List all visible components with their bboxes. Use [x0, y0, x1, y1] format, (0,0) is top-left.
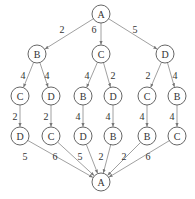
node-label: C [144, 91, 151, 102]
node-label: C [48, 131, 55, 142]
node-label: B [34, 49, 41, 60]
node-label: C [98, 49, 105, 60]
node-b: B [104, 127, 122, 145]
edge-weight-label: 4 [21, 70, 26, 81]
edge-n0-n1 [45, 19, 93, 49]
edge-n3-n8 [151, 62, 162, 87]
edge-arrow [103, 63, 110, 87]
node-d: D [74, 127, 92, 145]
edge-weight-label: 2 [146, 70, 151, 81]
node-b: B [28, 45, 46, 63]
node-label: B [144, 131, 151, 142]
node-c: C [168, 127, 186, 145]
edge-arrow [45, 19, 93, 49]
node-a: A [92, 173, 110, 191]
edge-arrow [28, 140, 93, 177]
edge-weight-label: 4 [76, 111, 81, 122]
node-label: D [16, 131, 23, 142]
node-d: D [42, 87, 60, 105]
edge-arrow [58, 142, 94, 175]
edge-weight-label: 2 [99, 151, 104, 162]
edge-weight-label: 2 [60, 24, 65, 35]
node-label: C [174, 131, 181, 142]
edge-weight-label: 4 [140, 111, 145, 122]
node-c: C [42, 127, 60, 145]
edge-n12-n16 [86, 144, 97, 173]
edge-weight-label: 4 [106, 111, 111, 122]
diagram-canvas: 265444224224444565226 ABCDCDBDCBDCDBBCA [0, 0, 195, 199]
node-label: A [97, 9, 105, 20]
edge-weight-label: 2 [122, 151, 127, 162]
edge-arrow [103, 145, 110, 173]
node-b: B [74, 87, 92, 105]
node-label: B [174, 91, 181, 102]
node-b: B [138, 127, 156, 145]
node-b: B [168, 87, 186, 105]
edge-weight-label: 5 [78, 151, 83, 162]
node-label: D [79, 131, 86, 142]
edge-weight-label: 6 [92, 24, 97, 35]
edge-weight-label: 4 [170, 111, 175, 122]
edge-weight-label: 2 [44, 111, 49, 122]
node-label: B [80, 91, 87, 102]
node-d: D [11, 127, 29, 145]
node-label: A [97, 177, 105, 188]
node-label: D [47, 91, 54, 102]
edge-weight-label: 4 [173, 70, 178, 81]
node-d: D [156, 45, 174, 63]
node-c: C [11, 87, 29, 105]
edge-weight-label: 6 [146, 151, 151, 162]
edge-n11-n16 [58, 142, 94, 175]
edge-weight-label: 5 [133, 24, 138, 35]
edge-arrow [151, 62, 162, 87]
node-a: A [92, 5, 110, 23]
node-label: D [161, 49, 168, 60]
edge-n10-n16 [28, 140, 93, 177]
search-tree-diagram: 265444224224444565226 ABCDCDBDCBDCDBBCA [0, 0, 195, 199]
edge-weight-label: 2 [111, 70, 116, 81]
edge-n13-n16 [103, 145, 110, 173]
node-c: C [138, 87, 156, 105]
edge-n15-n16 [109, 141, 169, 177]
edge-weight-label: 6 [53, 151, 58, 162]
edge-n2-n7 [103, 63, 110, 87]
edge-arrow [109, 141, 169, 177]
edge-weight-label: 4 [85, 70, 90, 81]
node-label: B [110, 131, 117, 142]
node-c: C [92, 45, 110, 63]
edge-weight-label: 2 [13, 111, 18, 122]
node-d: D [104, 87, 122, 105]
edge-arrow [86, 144, 97, 173]
node-label: C [17, 91, 24, 102]
edge-weight-label: 5 [23, 151, 28, 162]
node-label: D [109, 91, 116, 102]
edge-weight-label: 4 [45, 70, 50, 81]
